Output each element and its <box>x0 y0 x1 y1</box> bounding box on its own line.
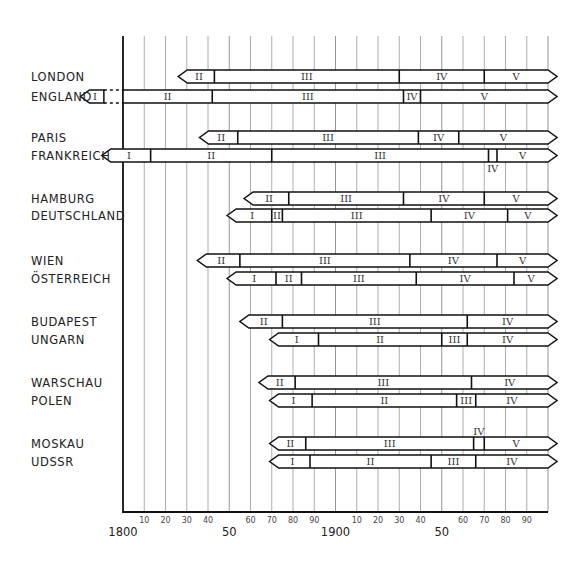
bar-outline <box>197 254 557 267</box>
segment-label: I <box>93 91 97 102</box>
row-label: ÖSTERREICH <box>31 270 111 286</box>
segment-label: II <box>273 210 281 221</box>
tick-label-minor: 80 <box>500 516 510 525</box>
tick-label-minor: 40 <box>203 516 213 525</box>
row-label: UNGARN <box>31 333 85 347</box>
segment-label: IV <box>433 132 445 143</box>
bars: IIIIIIVVIIIIIIIVVIIIIIIVVIIIIIIIVVIIIIII… <box>81 70 558 468</box>
segment-label: I <box>252 273 256 284</box>
tick-label-major: 1900 <box>321 525 350 539</box>
segment-label: III <box>448 456 460 467</box>
segment-label: III <box>351 210 363 221</box>
row-label: DEUTSCHLAND <box>31 209 125 223</box>
segment-label: IV <box>436 71 448 82</box>
segment-label: IV <box>460 273 472 284</box>
segment-label: V <box>523 210 532 221</box>
timeline-bar: IIIIIIVV <box>270 426 557 450</box>
tick-label-minor: 80 <box>288 516 298 525</box>
timeline-bar: IIIIIIVV <box>200 131 558 144</box>
tick-label-minor: 20 <box>373 516 383 525</box>
segment-label: IV <box>473 426 485 437</box>
row-label: POLEN <box>31 394 72 408</box>
segment-label: II <box>265 193 273 204</box>
segment-label: IV <box>502 334 514 345</box>
timeline-chart: IIIIIIVVIIIIIIIVVIIIIIIVVIIIIIIIVVIIIIII… <box>0 0 588 568</box>
segment-label: III <box>384 438 396 449</box>
timeline-bar: IIIIIIV <box>240 315 557 328</box>
row-labels: LONDONENGLANDPARISFRANKREICHHAMBURGDEUTS… <box>31 70 125 469</box>
bar-outline <box>178 70 557 83</box>
segment-label: V <box>518 150 527 161</box>
tick-label-major: 50 <box>222 525 237 539</box>
row-label: PARIS <box>31 131 67 145</box>
segment-label: II <box>260 316 268 327</box>
segment-label: IV <box>506 395 518 406</box>
tick-label-minor: 20 <box>160 516 170 525</box>
segment-label: I <box>127 150 131 161</box>
timeline-bar: IIIIIIV <box>259 376 557 389</box>
segment-label: V <box>512 438 521 449</box>
timeline-bar: IIIIIIIVV <box>102 149 557 174</box>
timeline-bar: IIIIIIIVV <box>227 209 557 222</box>
segment-label: II <box>380 395 388 406</box>
tick-label-minor: 70 <box>267 516 277 525</box>
timeline-bar: IIIIIIIVV <box>227 272 557 285</box>
segment-label: I <box>250 210 254 221</box>
segment-label: II <box>286 438 294 449</box>
segment-label: III <box>460 395 472 406</box>
segment-label: II <box>367 456 375 467</box>
row-label: MOSKAU <box>31 437 85 451</box>
segment-label: V <box>526 273 535 284</box>
row-label: ENGLAND <box>31 90 92 104</box>
segment-label: IV <box>506 456 518 467</box>
segment-label: II <box>276 377 284 388</box>
segment-label: II <box>376 334 384 345</box>
segment-label: I <box>292 395 296 406</box>
segment-label: V <box>512 71 521 82</box>
tick-label-minor: 30 <box>394 516 404 525</box>
tick-label-minor: 10 <box>352 516 362 525</box>
row-label: UDSSR <box>31 455 74 469</box>
segment-label: III <box>322 132 334 143</box>
timeline-bar: IIIIIIIV <box>270 333 557 346</box>
segment-label: I <box>291 456 295 467</box>
tick-label-minor: 10 <box>139 516 149 525</box>
segment-label: V <box>480 91 489 102</box>
timeline-bar: IIIIIIVV <box>197 254 557 267</box>
timeline-bar: IIIIIIVV <box>178 70 557 83</box>
bar-outline <box>270 333 557 346</box>
tick-label-minor: 90 <box>522 516 532 525</box>
segment-label: II <box>207 150 215 161</box>
tick-label-minor: 60 <box>245 516 255 525</box>
segment-label: IV <box>487 163 499 174</box>
segment-label: III <box>340 193 352 204</box>
tick-label-minor: 40 <box>415 516 425 525</box>
timeline-bar: IIIIIIIV <box>270 394 557 407</box>
segment-label: III <box>319 255 331 266</box>
segment-label: II <box>195 71 203 82</box>
segment-label: III <box>449 334 461 345</box>
tick-label-minor: 30 <box>182 516 192 525</box>
segment-label: V <box>512 193 521 204</box>
timeline-bar: IIIIIIVV <box>244 192 557 205</box>
segment-label: III <box>369 316 381 327</box>
segment-label: V <box>499 132 508 143</box>
tick-label-major: 50 <box>434 525 449 539</box>
timeline-bar: IIIIIIIV <box>270 455 557 468</box>
segment-label: IV <box>504 377 516 388</box>
segment-label: II <box>217 255 225 266</box>
bar-body <box>123 90 557 103</box>
segment-label: III <box>353 273 365 284</box>
row-label: HAMBURG <box>31 192 95 206</box>
row-label: WIEN <box>31 254 64 268</box>
segment-label: III <box>302 91 314 102</box>
tick-label-major: 1800 <box>108 525 137 539</box>
row-label: FRANKREICH <box>31 149 110 163</box>
segment-label: III <box>377 377 389 388</box>
tick-label-minor: 60 <box>458 516 468 525</box>
segment-label: III <box>374 150 386 161</box>
row-label: BUDAPEST <box>31 315 98 329</box>
tick-label-minor: 90 <box>309 516 319 525</box>
row-label: LONDON <box>31 70 85 84</box>
segment-label: IV <box>448 255 460 266</box>
